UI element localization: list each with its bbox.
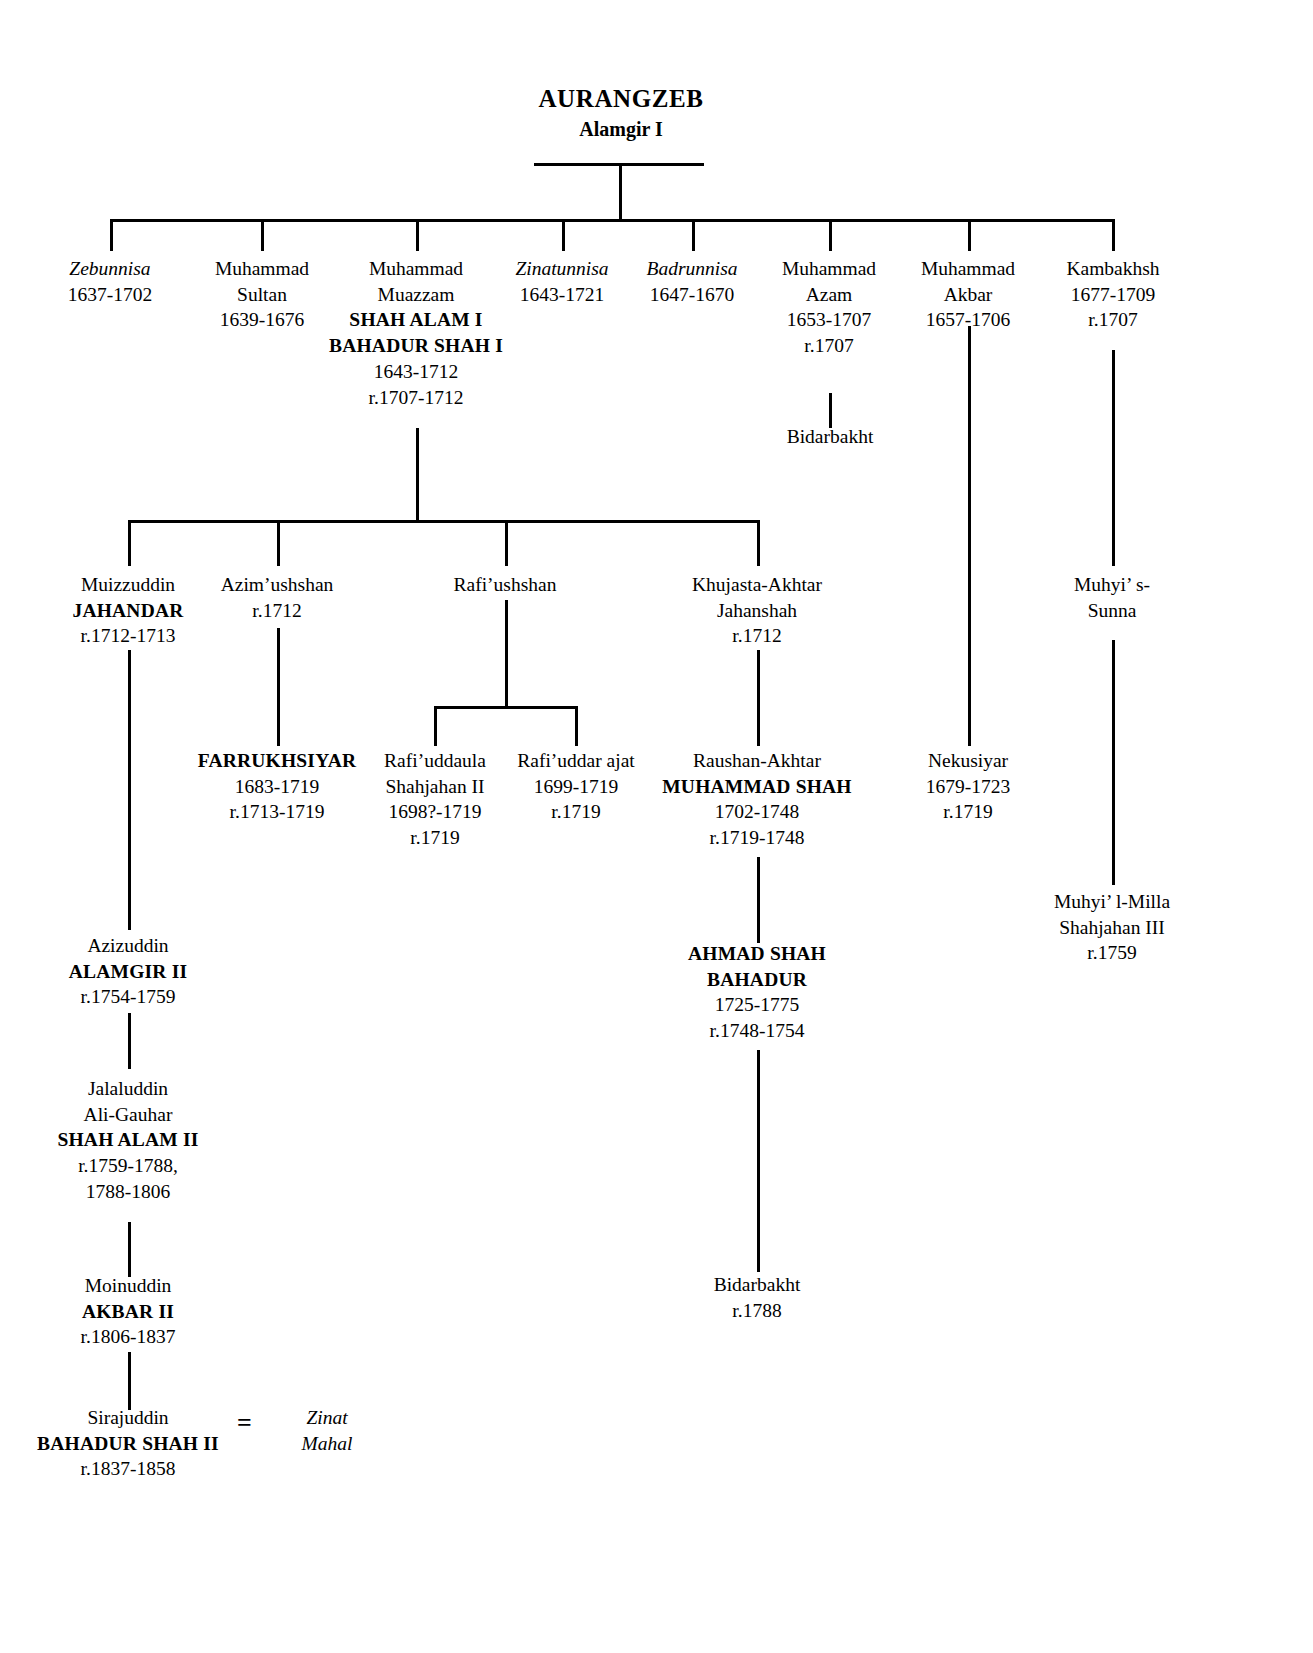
connector-ahmad-shah-to-bidarbakht (757, 1050, 760, 1272)
node-raushan-akhtar-muhammad-shah: Raushan-Akhtar MUHAMMAD SHAH 1702-1748 r… (637, 748, 877, 851)
node-khujasta-akhtar-jahanshah: Khujasta-Akhtar Jahanshah r.1712 (657, 572, 857, 649)
node-line: r.1806-1837 (28, 1324, 228, 1350)
marriage-equals-sign: = (237, 1410, 252, 1436)
node-line: BAHADUR (657, 967, 857, 993)
connector-akbar-ii-to-bahadur-shah-ii (128, 1352, 131, 1410)
node-line: Raushan-Akhtar (637, 748, 877, 774)
connector-drop-rafi-uddarajat (575, 706, 578, 746)
connector-drop-khujasta-akhtar (757, 520, 760, 566)
connector-drop-muhammad-akbar (968, 219, 971, 251)
node-line: Azizuddin (28, 933, 228, 959)
node-line: ALAMGIR II (28, 959, 228, 985)
connector-drop-muhammad-azam (829, 219, 832, 251)
node-line: 1702-1748 (637, 799, 877, 825)
node-kambakhsh: Kambakhsh 1677-1709 r.1707 (1013, 256, 1213, 333)
connector-muhyi-s-sunna-to-milla (1112, 640, 1115, 885)
root-subtitle: Alamgir I (536, 118, 706, 141)
node-line: r.1712 (657, 623, 857, 649)
node-line: BAHADUR SHAH II (28, 1431, 228, 1457)
node-line: 1677-1709 (1013, 282, 1213, 308)
node-line: Bidarbakht (730, 424, 930, 450)
connector-khujasta-to-muhammad-shah (757, 650, 760, 746)
connector-root-crossbar (534, 163, 704, 166)
node-line: r.1719 (868, 799, 1068, 825)
node-ahmad-shah-bahadur: AHMAD SHAH BAHADUR 1725-1775 r.1748-1754 (657, 941, 857, 1044)
node-muhyi-l-milla-shahjahan-iii: Muhyi’ l-Milla Shahjahan III r.1759 (1012, 889, 1212, 966)
node-line: r.1707 (1013, 307, 1213, 333)
node-rafi-ushshan: Rafi’ushshan (405, 572, 605, 598)
node-line: 1679-1723 (868, 774, 1068, 800)
node-azizuddin-alamgir-ii: Azizuddin ALAMGIR II r.1754-1759 (28, 933, 228, 1010)
connector-drop-muizzuddin (128, 520, 131, 566)
node-line: r.1712 (177, 598, 377, 624)
node-line: Zinat (262, 1405, 392, 1431)
node-line: r.1754-1759 (28, 984, 228, 1010)
node-line: Muhyi’ l-Milla (1012, 889, 1212, 915)
node-line: MUHAMMAD SHAH (637, 774, 877, 800)
node-bidarbakht-azam: Bidarbakht (730, 424, 930, 450)
connector-drop-rafi-uddaula (434, 706, 437, 746)
connector-drop-rafi-ushshan (505, 520, 508, 566)
connector-muazzam-stem (416, 428, 419, 522)
node-line: Ali-Gauhar (28, 1102, 228, 1128)
node-line: Rafi’ushshan (405, 572, 605, 598)
connector-rafi-sons-bus (434, 706, 578, 709)
node-line: r.1788 (657, 1298, 857, 1324)
connector-akbar-to-nekusiyar (968, 326, 971, 746)
connector-muhammad-shah-to-ahmad-shah (757, 857, 760, 943)
node-line: Jalaluddin (28, 1076, 228, 1102)
connector-alamgir-ii-to-shah-alam-ii (128, 1013, 131, 1069)
connector-drop-badrunnisa (692, 219, 695, 251)
node-line: 1643-1712 (316, 359, 516, 385)
connector-rafi-ushshan-stem (505, 600, 508, 708)
root-node-aurangzeb: AURANGZEB Alamgir I (536, 85, 706, 141)
node-line: Shahjahan III (1012, 915, 1212, 941)
genealogy-chart: AURANGZEB Alamgir I Zebunnisa 1637-1702 … (0, 0, 1313, 1653)
node-line: Sunna (1012, 598, 1212, 624)
node-jalaluddin-shah-alam-ii: Jalaluddin Ali-Gauhar SHAH ALAM II r.175… (28, 1076, 228, 1205)
connector-drop-azim-ushshan (277, 520, 280, 566)
node-line: r.1719-1748 (637, 825, 877, 851)
node-line: Nekusiyar (868, 748, 1068, 774)
connector-azim-to-farrukhsiyar (277, 628, 280, 746)
connector-drop-muhammad-sultan (261, 219, 264, 251)
node-line: Khujasta-Akhtar (657, 572, 857, 598)
node-line: Kambakhsh (1013, 256, 1213, 282)
node-line: Muhyi’ s- (1012, 572, 1212, 598)
node-line: 1725-1775 (657, 992, 857, 1018)
node-line: Sirajuddin (28, 1405, 228, 1431)
node-zinat-mahal: Zinat Mahal (262, 1405, 392, 1456)
node-line: r.1759-1788, (28, 1153, 228, 1179)
node-moinuddin-akbar-ii: Moinuddin AKBAR II r.1806-1837 (28, 1273, 228, 1350)
node-line: r.1712-1713 (28, 623, 228, 649)
node-line: AKBAR II (28, 1299, 228, 1325)
connector-drop-zebunnisa (110, 219, 113, 251)
node-line: r.1719 (346, 825, 524, 851)
node-nekusiyar: Nekusiyar 1679-1723 r.1719 (868, 748, 1068, 825)
node-line: Moinuddin (28, 1273, 228, 1299)
node-line: r.1837-1858 (28, 1456, 228, 1482)
node-line: r.1748-1754 (657, 1018, 857, 1044)
node-line: SHAH ALAM II (28, 1127, 228, 1153)
node-line: Jahanshah (657, 598, 857, 624)
node-line: BAHADUR SHAH I (316, 333, 516, 359)
connector-kambakhsh-to-muhyi-s-sunna (1112, 350, 1115, 566)
node-line: r.1759 (1012, 940, 1212, 966)
connector-shah-alam-ii-to-akbar-ii (128, 1222, 131, 1277)
node-line: SHAH ALAM I (316, 307, 516, 333)
connector-drop-zinatunnisa (562, 219, 565, 251)
node-line: 1788-1806 (28, 1179, 228, 1205)
connector-drop-kambakhsh (1112, 219, 1115, 251)
connector-azam-to-bidarbakht (829, 393, 832, 428)
node-line: Azim’ushshan (177, 572, 377, 598)
connector-muizzuddin-to-azizuddin (128, 650, 131, 930)
node-azim-ushshan: Azim’ushshan r.1712 (177, 572, 377, 623)
connector-root-stem (619, 163, 622, 221)
node-line: Bidarbakht (657, 1272, 857, 1298)
node-sirajuddin-bahadur-shah-ii: Sirajuddin BAHADUR SHAH II r.1837-1858 (28, 1405, 228, 1482)
node-line: r.1707-1712 (316, 385, 516, 411)
node-line: r.1707 (729, 333, 929, 359)
node-line: AHMAD SHAH (657, 941, 857, 967)
node-muhyi-s-sunna: Muhyi’ s- Sunna (1012, 572, 1212, 623)
connector-drop-muhammad-muazzam (416, 219, 419, 251)
